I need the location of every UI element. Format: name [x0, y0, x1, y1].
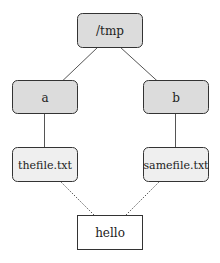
node-a: a	[13, 81, 78, 114]
edges	[45, 47, 176, 221]
node-samefile-label: samefile.txt	[143, 159, 209, 172]
node-thefile: thefile.txt	[13, 148, 78, 182]
node-thefile-label: thefile.txt	[18, 159, 73, 172]
node-b: b	[144, 81, 209, 114]
node-b-label: b	[172, 91, 180, 105]
node-a-label: a	[41, 91, 48, 105]
edge-samefile-to-hello	[120, 178, 163, 221]
node-hello-label: hello	[95, 226, 125, 240]
hardlink-diagram: /tmp a b thefile.txt samefile.txt hello	[0, 0, 220, 263]
edge-thefile-to-hello	[57, 178, 100, 221]
node-tmp: /tmp	[78, 14, 143, 48]
node-samefile: samefile.txt	[143, 148, 209, 182]
node-hello: hello	[78, 216, 143, 250]
node-tmp-label: /tmp	[96, 24, 124, 38]
